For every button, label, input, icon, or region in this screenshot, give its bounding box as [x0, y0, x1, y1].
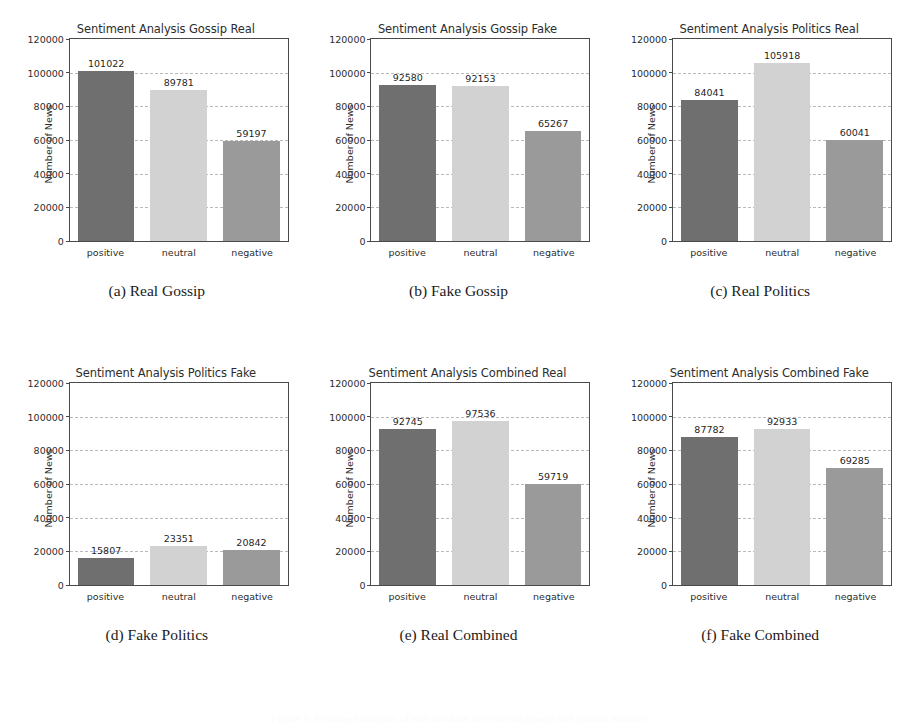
x-tick-label: neutral — [150, 591, 207, 602]
panel-subcaption: (a) Real Gossip — [109, 282, 205, 300]
figure-footer-caption: Figure 4: Sentiment analysis of real and… — [0, 712, 917, 724]
chart-f: Sentiment Analysis Combined FakeNumber o… — [616, 352, 904, 624]
bar-positive: 84041 — [681, 100, 738, 241]
bar-neutral: 92153 — [452, 86, 509, 241]
x-axis-ticks: positiveneutralnegative — [69, 242, 289, 258]
chart-title: Sentiment Analysis Politics Fake — [13, 366, 301, 380]
y-axis-label: Number of News — [43, 104, 54, 183]
x-tick-label: positive — [379, 591, 436, 602]
plot-area: 0200004000060000800001000001200009258092… — [370, 38, 590, 242]
bar-value-label: 92580 — [393, 72, 423, 83]
y-tick-label: 100000 — [631, 67, 673, 78]
bar-value-label: 92933 — [767, 416, 797, 427]
bar-group: 927459753659719 — [371, 383, 589, 585]
y-axis-label: Number of News — [345, 448, 356, 527]
chart-panel-a: Sentiment Analysis Gossip RealNumber of … — [6, 8, 308, 352]
bar-group: 158072335120842 — [70, 383, 288, 585]
chart-title: Sentiment Analysis Politics Real — [616, 22, 904, 36]
bar-positive: 92580 — [379, 85, 436, 241]
chart-c: Sentiment Analysis Politics RealNumber o… — [616, 8, 904, 280]
plot-area: 0200004000060000800001000001200001010228… — [69, 38, 289, 242]
bar-column: 59719 — [525, 383, 582, 585]
bar-value-label: 105918 — [764, 50, 800, 61]
panel-subcaption: (e) Real Combined — [400, 626, 518, 644]
y-tick-label: 100000 — [329, 67, 371, 78]
bar-negative: 59719 — [525, 484, 582, 585]
plot-area: 0200004000060000800001000001200009274597… — [370, 382, 590, 586]
x-tick-label: negative — [224, 591, 281, 602]
chart-title: Sentiment Analysis Gossip Real — [13, 22, 301, 36]
x-tick-label: neutral — [150, 247, 207, 258]
x-tick-label: negative — [525, 247, 582, 258]
bar-value-label: 84041 — [694, 87, 724, 98]
y-tick-label: 20000 — [637, 546, 673, 557]
y-axis-label: Number of News — [646, 104, 657, 183]
bar-column: 20842 — [223, 383, 280, 585]
panel-subcaption: (c) Real Politics — [710, 282, 810, 300]
bar-column: 65267 — [525, 39, 582, 241]
chart-panel-f: Sentiment Analysis Combined FakeNumber o… — [609, 352, 911, 696]
x-tick-label: negative — [827, 247, 884, 258]
panel-subcaption: (d) Fake Politics — [106, 626, 208, 644]
bar-column: 92153 — [452, 39, 509, 241]
bar-value-label: 69285 — [840, 455, 870, 466]
y-tick-label: 20000 — [34, 202, 70, 213]
bar-value-label: 60041 — [840, 127, 870, 138]
x-tick-label: positive — [680, 247, 737, 258]
bar-neutral: 89781 — [150, 90, 207, 241]
bar-negative: 69285 — [826, 468, 883, 585]
x-tick-label: positive — [77, 591, 134, 602]
x-axis-ticks: positiveneutralnegative — [672, 242, 892, 258]
chart-title: Sentiment Analysis Combined Fake — [616, 366, 904, 380]
bar-value-label: 15807 — [91, 545, 121, 556]
bar-negative: 59197 — [223, 141, 280, 241]
x-tick-label: neutral — [754, 247, 811, 258]
bar-column: 59197 — [223, 39, 280, 241]
bar-value-label: 87782 — [694, 424, 724, 435]
x-tick-label: negative — [525, 591, 582, 602]
x-tick-label: positive — [77, 247, 134, 258]
bar-column: 84041 — [681, 39, 738, 241]
bar-group: 877829293369285 — [673, 383, 891, 585]
x-axis-ticks: positiveneutralnegative — [672, 586, 892, 602]
bar-group: 925809215365267 — [371, 39, 589, 241]
bar-value-label: 20842 — [236, 537, 266, 548]
x-tick-label: positive — [379, 247, 436, 258]
y-tick-label: 20000 — [34, 546, 70, 557]
bar-value-label: 92153 — [465, 73, 495, 84]
y-tick-label: 100000 — [631, 411, 673, 422]
panel-subcaption: (f) Fake Combined — [701, 626, 819, 644]
x-tick-label: neutral — [452, 247, 509, 258]
chart-panel-d: Sentiment Analysis Politics FakeNumber o… — [6, 352, 308, 696]
bar-column: 92745 — [379, 383, 436, 585]
bar-negative: 60041 — [826, 140, 883, 241]
y-axis-label: Number of News — [345, 104, 356, 183]
bar-column: 60041 — [826, 39, 883, 241]
y-axis-label: Number of News — [43, 448, 54, 527]
bar-neutral: 92933 — [754, 429, 811, 585]
x-axis-ticks: positiveneutralnegative — [370, 242, 590, 258]
bar-value-label: 101022 — [88, 58, 124, 69]
x-tick-label: negative — [224, 247, 281, 258]
bar-group: 8404110591860041 — [673, 39, 891, 241]
bar-negative: 20842 — [223, 550, 280, 585]
y-tick-label: 100000 — [329, 411, 371, 422]
bar-positive: 87782 — [681, 437, 738, 585]
x-tick-label: neutral — [754, 591, 811, 602]
y-axis-label: Number of News — [646, 448, 657, 527]
plot-area: 0200004000060000800001000001200008778292… — [672, 382, 892, 586]
chart-title: Sentiment Analysis Combined Real — [314, 366, 602, 380]
plot-area: 0200004000060000800001000001200001580723… — [69, 382, 289, 586]
x-tick-label: neutral — [452, 591, 509, 602]
y-tick-label: 20000 — [335, 546, 371, 557]
bar-column: 15807 — [78, 383, 135, 585]
bar-value-label: 23351 — [164, 533, 194, 544]
bar-column: 23351 — [150, 383, 207, 585]
bar-neutral: 105918 — [754, 63, 811, 241]
figure-grid: Sentiment Analysis Gossip RealNumber of … — [0, 0, 917, 726]
chart-b: Sentiment Analysis Gossip FakeNumber of … — [314, 8, 602, 280]
chart-panel-b: Sentiment Analysis Gossip FakeNumber of … — [308, 8, 610, 352]
x-axis-ticks: positiveneutralnegative — [69, 586, 289, 602]
bar-value-label: 65267 — [538, 118, 568, 129]
bar-positive: 101022 — [78, 71, 135, 241]
